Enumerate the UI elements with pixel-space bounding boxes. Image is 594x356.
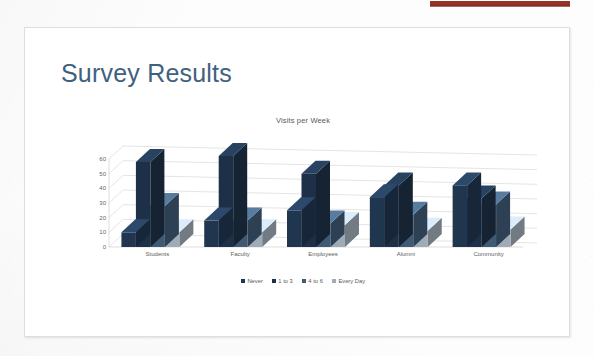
bar-face (399, 172, 413, 247)
bar-face (453, 185, 467, 247)
legend-item: Never (241, 278, 263, 284)
legend-label: 1 to 3 (278, 278, 293, 284)
red-banner-fragment (430, 0, 570, 7)
bar-face (287, 210, 301, 247)
bar-face (467, 172, 481, 247)
legend-item: 4 to 6 (302, 278, 323, 284)
legend-item: Every Day (332, 278, 365, 284)
bar-face (370, 197, 384, 247)
chart-plot-area: 0102030405060 StudentsFacultyEmployeesAl… (63, 132, 543, 260)
bar-face (233, 143, 247, 247)
chart-bars (63, 132, 543, 260)
bar-face (121, 232, 135, 247)
legend-label: Every Day (338, 278, 365, 284)
page-title: Survey Results (61, 59, 232, 88)
legend-swatch-icon (302, 279, 306, 283)
legend-swatch-icon (332, 279, 336, 283)
x-axis-category-label: Community (473, 251, 503, 257)
bar-face (316, 161, 330, 247)
legend-label: Never (247, 278, 262, 284)
legend-swatch-icon (241, 279, 245, 283)
chart-title: Visits per Week (63, 116, 543, 125)
x-axis-category-label: Alumni (397, 251, 415, 257)
bar-face (150, 149, 164, 247)
x-axis-category-label: Students (146, 251, 170, 257)
x-axis-category-label: Faculty (231, 251, 250, 257)
bar-face (204, 221, 218, 247)
x-axis-category-label: Employees (308, 251, 338, 257)
legend-swatch-icon (272, 279, 276, 283)
legend-item: 1 to 3 (272, 278, 293, 284)
chart-legend: Never1 to 34 to 6Every Day (63, 278, 543, 284)
bar-chart: Visits per Week 0102030405060 StudentsFa… (63, 116, 543, 296)
legend-label: 4 to 6 (308, 278, 323, 284)
presentation-slide: Survey Results Visits per Week 010203040… (24, 27, 570, 337)
